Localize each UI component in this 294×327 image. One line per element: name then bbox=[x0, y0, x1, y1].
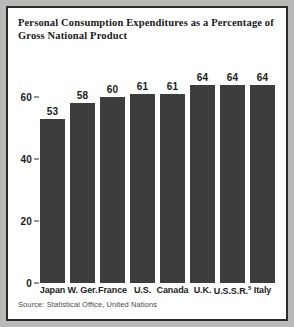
bar-group: 61U.S. bbox=[130, 66, 155, 283]
y-axis-tick: 20 bbox=[20, 216, 40, 227]
bar-value-label: 61 bbox=[130, 81, 155, 92]
category-footnote-marker: 5 bbox=[248, 285, 251, 291]
bar-group: 61Canada bbox=[160, 66, 185, 283]
bar bbox=[130, 94, 155, 283]
bar bbox=[250, 85, 275, 283]
x-axis-category-label: Japan bbox=[40, 285, 66, 295]
x-axis-category-label: Canada bbox=[157, 285, 189, 295]
y-axis-tick: 0 bbox=[26, 278, 40, 289]
x-axis-category-label: U.S.S.R.5 bbox=[214, 285, 251, 296]
y-axis-tick-mark bbox=[34, 159, 39, 160]
bar bbox=[220, 85, 245, 283]
x-axis-category-label: U.S. bbox=[134, 285, 151, 295]
y-axis-tick-label: 0 bbox=[26, 278, 32, 289]
y-axis-tick: 60 bbox=[20, 92, 40, 103]
y-axis-tick: 40 bbox=[20, 154, 40, 165]
plot-area: 020406053Japan58W. Ger.60France61U.S.61C… bbox=[8, 8, 286, 319]
bar-group: 64U.S.S.R.5 bbox=[220, 66, 245, 283]
bar-group: 60France bbox=[100, 66, 125, 283]
bar bbox=[40, 119, 65, 283]
x-axis-category-label: France bbox=[98, 285, 127, 295]
y-axis-tick-mark bbox=[34, 283, 39, 284]
bar-group: 64Italy bbox=[250, 66, 275, 283]
chart-figure: Personal Consumption Expenditures as a P… bbox=[6, 6, 288, 321]
bar bbox=[70, 103, 95, 283]
bar bbox=[100, 97, 125, 283]
bar-value-label: 60 bbox=[100, 84, 125, 95]
bar-group: 64U.K. bbox=[190, 66, 215, 283]
bar-value-label: 64 bbox=[190, 72, 215, 83]
x-axis-category-label: Italy bbox=[254, 285, 272, 295]
bar bbox=[160, 94, 185, 283]
source-note: Source: Statistical Office, United Natio… bbox=[18, 300, 157, 309]
y-axis-tick-label: 60 bbox=[20, 92, 32, 103]
bar-value-label: 64 bbox=[250, 72, 275, 83]
bar-value-label: 64 bbox=[220, 72, 245, 83]
bar-value-label: 53 bbox=[40, 106, 65, 117]
bar-group: 58W. Ger. bbox=[70, 66, 95, 283]
x-axis-category-label: U.K. bbox=[194, 285, 212, 295]
bar-value-label: 61 bbox=[160, 81, 185, 92]
x-axis-category-label: W. Ger. bbox=[68, 285, 98, 295]
y-axis-tick-label: 40 bbox=[20, 154, 32, 165]
bar bbox=[190, 85, 215, 283]
bar-value-label: 58 bbox=[70, 90, 95, 101]
bars-container: 020406053Japan58W. Ger.60France61U.S.61C… bbox=[40, 66, 280, 283]
y-axis-tick-mark bbox=[34, 221, 39, 222]
y-axis-tick-mark bbox=[34, 97, 39, 98]
y-axis-tick-label: 20 bbox=[20, 216, 32, 227]
bar-group: 53Japan bbox=[40, 66, 65, 283]
